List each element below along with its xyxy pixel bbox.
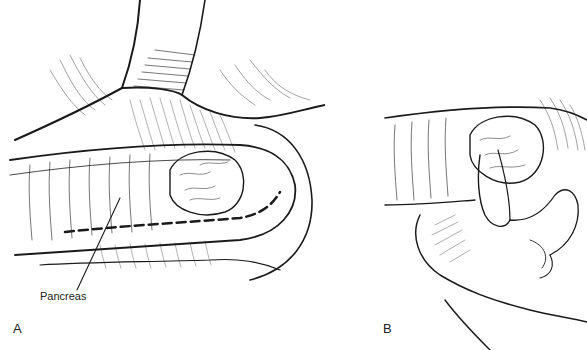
- pancreas-label: Pancreas: [40, 290, 86, 302]
- palpation-hand-drawing: [380, 0, 587, 350]
- panel-a-illustration: Pancreas A: [0, 0, 325, 350]
- panel-b-label: B: [383, 321, 392, 336]
- panel-b-illustration: B: [380, 0, 587, 350]
- panel-a-label: A: [13, 321, 22, 336]
